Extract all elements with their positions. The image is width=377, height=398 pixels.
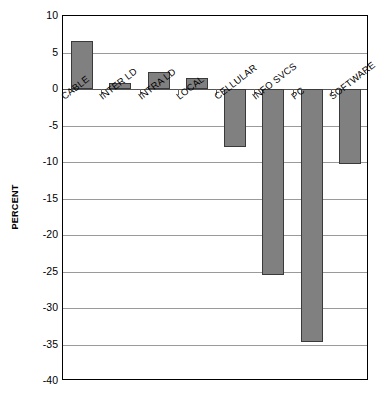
bar <box>186 78 208 89</box>
y-tick-label: 5 <box>24 46 58 57</box>
x-axis-tick <box>254 89 255 95</box>
gridline <box>63 53 367 54</box>
y-tick-label: -40 <box>24 375 58 386</box>
y-tick-label: -25 <box>24 265 58 276</box>
y-axis-title: PERCENT <box>6 162 24 252</box>
y-tick-label: -30 <box>24 302 58 313</box>
gridline <box>63 345 367 346</box>
y-tick-label: 0 <box>24 83 58 94</box>
y-tick-label: -35 <box>24 338 58 349</box>
bar <box>301 89 323 342</box>
bar <box>339 89 361 164</box>
y-tick-label: -20 <box>24 229 58 240</box>
bar <box>148 72 170 89</box>
y-tick-label: -15 <box>24 192 58 203</box>
x-axis-tick <box>293 89 294 95</box>
y-axis-title-text: PERCENT <box>10 184 20 229</box>
y-axis-tick-labels: 1050-5-10-15-20-25-30-35-40 <box>24 0 58 398</box>
x-axis-tick <box>216 89 217 95</box>
plot-area <box>62 15 368 380</box>
y-tick-label: 10 <box>24 10 58 21</box>
x-axis-tick <box>140 89 141 95</box>
y-tick-label: -5 <box>24 119 58 130</box>
x-axis-tick <box>101 89 102 95</box>
bar <box>109 83 131 89</box>
y-tick-label: -10 <box>24 156 58 167</box>
x-axis-tick <box>178 89 179 95</box>
bar <box>262 89 284 275</box>
x-axis-tick <box>331 89 332 95</box>
bar <box>224 89 246 147</box>
bar <box>71 41 93 89</box>
